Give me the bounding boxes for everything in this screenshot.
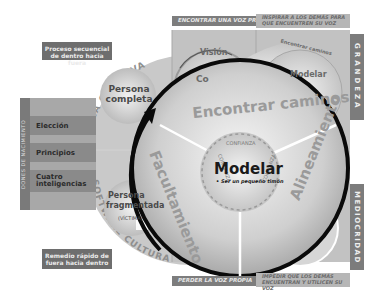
dones-de-nacimiento-label: DONES DE NACIMIENTO — [20, 98, 30, 210]
grandeza-bar: GRANDEZA — [350, 34, 364, 120]
list-item-eleccion: Elección — [30, 116, 96, 135]
callout-inside-out: Proceso secuencial de dentro hacia fuera — [42, 42, 112, 60]
mediocridad-bar: MEDIOCRIDAD — [350, 184, 364, 270]
mini-co-label: Co — [196, 74, 209, 84]
band-perder-voz: PERDER LA VOZ PROPIA — [172, 276, 256, 286]
mini-vision-label: Visión — [200, 48, 228, 57]
center-title: Modelar — [214, 160, 283, 178]
persona-fragmentada-line2: fragmentada — [106, 201, 164, 210]
band-inspirar: INSPIRAR A LOS DEMÁS PARA QUE ENCUENTREN… — [256, 14, 350, 28]
mini-modelar-label: Modelar — [290, 70, 327, 79]
center-subtitle: • Ser un pequeño timón — [216, 178, 284, 184]
mediocridad-label: MEDIOCRIDAD — [353, 191, 361, 264]
list-item-principios: Principios — [30, 143, 96, 162]
grandeza-label: GRANDEZA — [353, 43, 361, 111]
band-impedir: IMPEDIR QUE LOS DEMÁS ENCUENTRAN Y UTILI… — [256, 273, 350, 287]
persona-fragmentada-line1: Persona — [108, 191, 145, 200]
band-encontrar-voz: ENCONTRAR UNA VOZ PROPIA — [172, 16, 256, 26]
list-item-cuatro-inteligencias: Cuatro inteligencias — [30, 170, 96, 192]
persona-completa-label: Persona completa — [104, 84, 154, 104]
callout-outside-in: Remedio rápido de fuera hacia dentro — [42, 249, 112, 269]
trust-label-top: CONFIANZA — [226, 140, 256, 146]
victima-label: (VÍCTIMA) — [118, 215, 143, 221]
